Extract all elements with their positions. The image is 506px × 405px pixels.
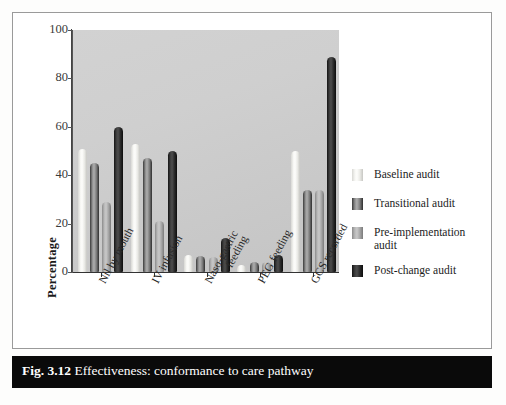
legend-item: Transitional audit	[352, 197, 482, 213]
x-tick-label: Nil by mouth	[97, 226, 136, 285]
y-tick-mark	[68, 175, 73, 176]
x-tick-label: IV infusion	[150, 234, 184, 286]
y-tick-mark	[68, 30, 73, 31]
legend-label: Transitional audit	[374, 197, 482, 210]
caption: Fig. 3.12 Effectiveness: conformance to …	[22, 363, 313, 379]
legend: Baseline auditTransitional auditPre-impl…	[352, 168, 482, 293]
figure-container: 020406080100 Percentage Nil by mouthIV i…	[0, 0, 506, 405]
caption-title: Effectiveness: conformance to care pathw…	[75, 363, 314, 378]
legend-item: Baseline audit	[352, 168, 482, 184]
legend-swatch	[352, 169, 363, 181]
y-tick-mark	[68, 224, 73, 225]
y-tick-mark	[68, 272, 73, 273]
legend-item: Pre-implementation audit	[352, 226, 482, 251]
legend-label: Pre-implementation audit	[374, 226, 482, 251]
legend-swatch	[352, 227, 363, 239]
x-tick-label: PEG feeding	[256, 228, 293, 285]
x-tick-label: GCS recorded	[309, 222, 349, 285]
legend-label: Post-change audit	[374, 264, 482, 277]
legend-swatch	[352, 198, 363, 210]
y-tick-mark	[68, 127, 73, 128]
legend-swatch	[352, 265, 363, 277]
y-tick-mark	[68, 78, 73, 79]
caption-number: Fig. 3.12	[22, 363, 71, 378]
legend-item: Post-change audit	[352, 264, 482, 280]
legend-label: Baseline audit	[374, 168, 482, 181]
x-tick-label: Naso-gastric feeding	[203, 229, 250, 291]
